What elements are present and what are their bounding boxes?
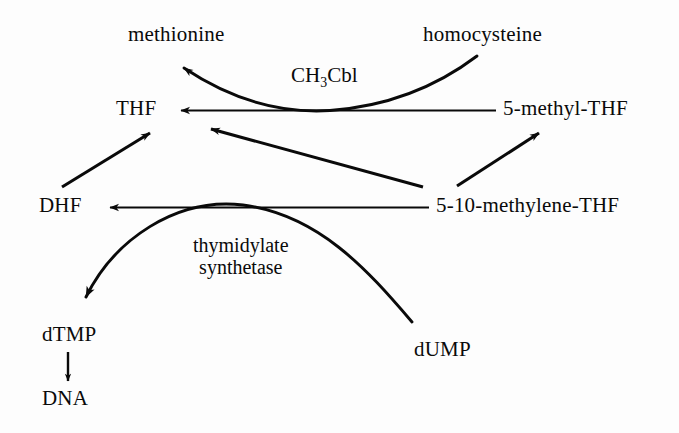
edge-dhf-to-thf (62, 133, 150, 187)
thymidylate-line-1: thymidylate (193, 235, 289, 257)
edge-methylene-thf-to-5-methyl-thf (457, 133, 539, 186)
node-dhf: DHF (39, 193, 82, 218)
node-methionine: methionine (128, 22, 224, 47)
pathway-diagram: methionine homocysteine THF 5-methyl-THF… (0, 0, 679, 433)
node-thf: THF (116, 96, 156, 121)
node-5-10-methylene-thf: 5-10-methylene-THF (436, 193, 619, 218)
thymidylate-line-2: synthetase (193, 257, 289, 279)
enzyme-label-thymidylate-synthetase: thymidylate synthetase (193, 235, 289, 278)
ch3cbl-part-ch: CH (291, 63, 320, 87)
node-5-methyl-thf: 5-methyl-THF (503, 96, 628, 121)
node-dtmp: dTMP (42, 322, 96, 347)
enzyme-label-ch3cbl: CH3Cbl (291, 64, 357, 91)
node-dump: dUMP (414, 337, 471, 362)
edge-methylene-thf-to-thf (211, 129, 423, 187)
node-homocysteine: homocysteine (423, 22, 542, 47)
node-dna: DNA (42, 386, 88, 411)
ch3cbl-part-cbl: Cbl (327, 63, 357, 87)
